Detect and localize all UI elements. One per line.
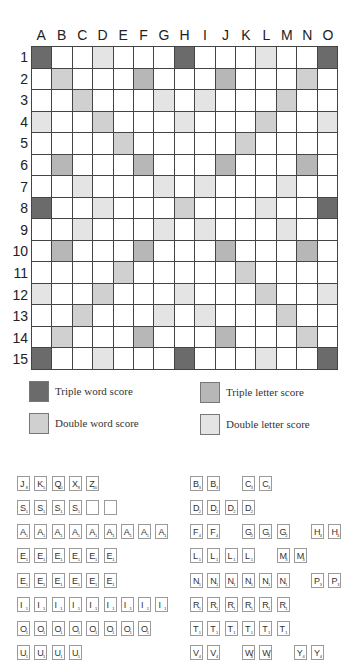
board-cell-d15-double-letter — [93, 348, 112, 369]
tile-r: R1 — [242, 597, 255, 612]
board-cell-m4-plain — [277, 112, 296, 133]
tile-value: 1 — [43, 557, 45, 562]
board-cell-o3-plain — [318, 90, 337, 111]
board-cell-g11-plain — [154, 262, 173, 283]
board-cell-a15-triple-word — [32, 348, 51, 369]
tile-value: 4 — [199, 654, 201, 659]
board-cell-a5-plain — [32, 133, 51, 154]
board-cell-m15-plain — [277, 348, 296, 369]
tile-i: I1 — [121, 597, 134, 612]
tile-e: E1 — [52, 573, 65, 588]
board-cell-a14-plain — [32, 327, 51, 348]
board-cell-d4-double-word — [93, 112, 112, 133]
board-cell-f12-plain — [134, 284, 153, 305]
board-cell-k6-plain — [236, 155, 255, 176]
tile-value: 10 — [93, 485, 97, 490]
tile-o: O1 — [86, 621, 99, 636]
tile-letter: T — [262, 624, 268, 634]
board-cell-g15-plain — [154, 348, 173, 369]
tile-d: D2 — [225, 500, 238, 515]
tile-letter: T — [245, 624, 251, 634]
board-cell-k12-plain — [236, 284, 255, 305]
tile-e: E1 — [52, 548, 65, 563]
board-cell-i2-plain — [195, 69, 214, 90]
board-cell-f15-plain — [134, 348, 153, 369]
board-cell-o14-plain — [318, 327, 337, 348]
tile-value: 1 — [78, 606, 80, 611]
board-cell-o9-plain — [318, 219, 337, 240]
tile-c: C3 — [259, 476, 272, 491]
tile-e: E1 — [104, 573, 117, 588]
tile-n: N1 — [259, 573, 272, 588]
board-cell-a9-plain — [32, 219, 51, 240]
board-cell-b3-plain — [52, 90, 71, 111]
column-label-e: E — [113, 27, 134, 43]
row-label-13: 13 — [2, 308, 28, 324]
row-label-15: 15 — [2, 351, 28, 367]
column-label-h: H — [174, 27, 195, 43]
tile-n: N1 — [207, 573, 220, 588]
tile-value: 10 — [58, 485, 62, 490]
board-cell-a10-plain — [32, 241, 51, 262]
tile-i: I1 — [104, 597, 117, 612]
board-cell-m14-plain — [277, 327, 296, 348]
tile-value: 1 — [130, 606, 132, 611]
board-cell-d9-plain — [93, 219, 112, 240]
board-cell-g5-plain — [154, 133, 173, 154]
tile-value: 5 — [43, 485, 45, 490]
tile-b: B3 — [190, 476, 203, 491]
legend-label-double-word: Double word score — [55, 417, 139, 429]
board-cell-d1-double-letter — [93, 47, 112, 68]
legend-swatch-triple-word — [29, 381, 49, 402]
tile-value: 3 — [285, 557, 287, 562]
board-cell-o8-triple-word — [318, 198, 337, 219]
tile-value: 1 — [199, 630, 201, 635]
board-cell-b5-plain — [52, 133, 71, 154]
tile-a: A1 — [52, 524, 65, 539]
board-cell-g2-plain — [154, 69, 173, 90]
board-cell-n14-double-word — [297, 327, 316, 348]
board-cell-o5-plain — [318, 133, 337, 154]
tile-value: 1 — [112, 606, 114, 611]
tile-w: W4 — [242, 645, 255, 660]
board-cell-d3-plain — [93, 90, 112, 111]
board-cell-k14-plain — [236, 327, 255, 348]
tile-value: 1 — [43, 654, 45, 659]
board-cell-i15-plain — [195, 348, 214, 369]
tile-value: 1 — [216, 557, 218, 562]
tile-value: 1 — [112, 557, 114, 562]
tile-x: X8 — [69, 476, 82, 491]
tile-s: S1 — [34, 500, 47, 515]
tile-letter: I — [20, 600, 23, 610]
board-cell-a8-triple-word — [32, 198, 51, 219]
board-cell-h7-plain — [175, 176, 194, 197]
tile-blank — [104, 500, 117, 515]
board-cell-a13-plain — [32, 305, 51, 326]
tile-value: 2 — [199, 509, 201, 514]
board-cell-h13-plain — [175, 305, 194, 326]
board-cell-h8-double-word — [175, 198, 194, 219]
row-label-12: 12 — [2, 287, 28, 303]
board-cell-m12-plain — [277, 284, 296, 305]
board-cell-m6-plain — [277, 155, 296, 176]
tile-value: 1 — [43, 606, 45, 611]
tile-letter: I — [37, 600, 40, 610]
tile-value: 1 — [233, 557, 235, 562]
tile-value: 1 — [216, 606, 218, 611]
board-cell-j11-plain — [216, 262, 235, 283]
tile-letter: F — [193, 527, 199, 537]
board-cell-g6-plain — [154, 155, 173, 176]
tile-value: 3 — [216, 485, 218, 490]
tile-value: 1 — [78, 654, 80, 659]
tile-h: H4 — [311, 524, 324, 539]
tile-z: Z10 — [86, 476, 99, 491]
board-cell-g10-plain — [154, 241, 173, 262]
column-label-m: M — [277, 27, 298, 43]
tile-value: 1 — [233, 606, 235, 611]
tile-r: R1 — [190, 597, 203, 612]
board-cell-f11-plain — [134, 262, 153, 283]
column-label-b: B — [51, 27, 72, 43]
board-cell-k9-plain — [236, 219, 255, 240]
row-label-3: 3 — [2, 92, 28, 108]
tile-value: 1 — [268, 630, 270, 635]
